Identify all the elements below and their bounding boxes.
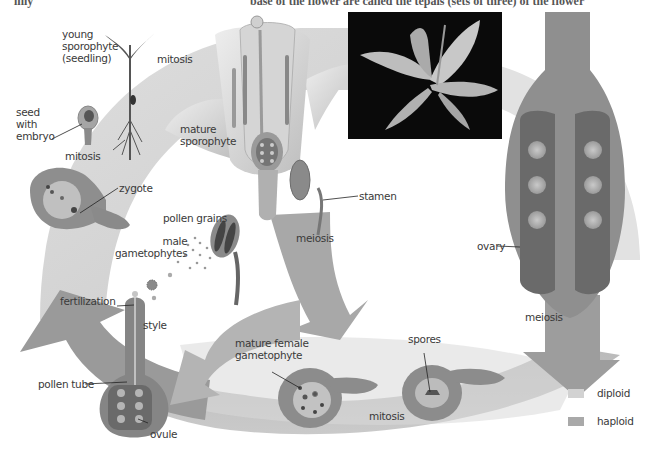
- label-style: style: [143, 319, 167, 331]
- label-stamen: stamen: [359, 190, 397, 202]
- pollen-sac-illustration: [206, 211, 244, 305]
- diploid-swatch: [568, 389, 584, 398]
- label-mitosis-top: mitosis: [157, 53, 192, 65]
- label-ovule: ovule: [150, 428, 177, 440]
- legend-item-diploid: diploid: [568, 386, 634, 400]
- legend-label-haploid: haploid: [597, 415, 634, 427]
- label-pollen-tube: pollen tube: [38, 378, 94, 390]
- cropped-header-left: lilly: [14, 0, 33, 9]
- label-fertilization: fertilization: [60, 295, 116, 307]
- label-mitosis-bottom: mitosis: [369, 410, 404, 422]
- label-meiosis-right: meiosis: [525, 311, 563, 323]
- label-seed-with-embryo: seed with embryo: [16, 106, 55, 142]
- label-young-sporophyte: young sporophyte (seedling): [62, 28, 118, 64]
- lily-photo: [348, 12, 502, 139]
- label-meiosis-center: meiosis: [296, 232, 334, 244]
- label-spores: spores: [408, 333, 441, 345]
- legend-item-haploid: haploid: [568, 414, 634, 428]
- label-ovary: ovary: [477, 240, 505, 252]
- label-pollen-grains: pollen grains: [163, 212, 227, 224]
- legend: diploid haploid: [568, 386, 634, 442]
- cropped-header-right: base of the flower are called the tepals…: [250, 0, 584, 9]
- haploid-swatch: [568, 417, 584, 426]
- label-zygote: zygote: [119, 182, 153, 194]
- label-mature-sporophyte: mature sporophyte: [180, 123, 236, 147]
- ovary-cross-section-illustration: [505, 12, 625, 318]
- label-mature-female-gametophyte: mature female gametophyte: [235, 337, 309, 361]
- legend-label-diploid: diploid: [597, 387, 630, 399]
- label-mitosis-left: mitosis: [65, 150, 100, 162]
- germinating-pollen-icons: [147, 273, 172, 300]
- lily-life-cycle-diagram: [0, 0, 653, 450]
- label-male-gametophytes: male gametophytes: [115, 235, 187, 259]
